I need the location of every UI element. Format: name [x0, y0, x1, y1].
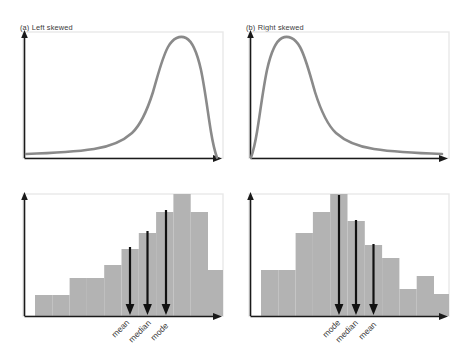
- left-skewed-density-plot: [10, 14, 232, 176]
- statistic-labels: mean median mode: [109, 317, 170, 344]
- label-median: median: [126, 318, 153, 345]
- label-mean: mean: [356, 319, 378, 341]
- panel-left-skewed-curve: (a) Left skewed: [10, 14, 232, 176]
- statistic-labels: mode median mean: [320, 317, 378, 344]
- label-mode: mode: [148, 320, 170, 342]
- right-skewed-histogram-plot: mode median mean: [236, 186, 458, 361]
- plot-frame: [249, 32, 449, 158]
- panel-right-skewed-curve: (b) Right skewed: [236, 14, 458, 176]
- skewness-figure: (a) Left skewed (b) Right skewed: [0, 0, 464, 363]
- left-skewed-histogram-plot: mean median mode: [10, 186, 232, 361]
- panel-left-skewed-histogram: mean median mode: [10, 186, 232, 361]
- panel-right-skewed-histogram: mode median mean: [236, 186, 458, 361]
- right-skewed-density-plot: [236, 14, 458, 176]
